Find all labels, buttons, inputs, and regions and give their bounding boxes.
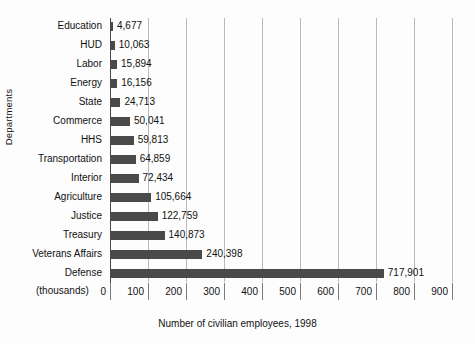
bar-row: HUD10,063 xyxy=(110,37,452,56)
bar-row: Treasury140,873 xyxy=(110,227,452,246)
bar-row: Veterans Affairs240,398 xyxy=(110,246,452,265)
bar xyxy=(111,155,136,164)
category-label: Veterans Affairs xyxy=(32,247,102,260)
category-label: HUD xyxy=(80,38,102,51)
category-label: Agriculture xyxy=(54,190,102,203)
category-label: Justice xyxy=(71,209,102,222)
y-axis-title-text: Departments xyxy=(2,52,16,182)
units-note: (thousands) xyxy=(36,285,89,296)
x-axis-ticks: 0100200300400500600700800900 xyxy=(110,283,452,301)
bar-chart: Departments Education4,677HUD10,063Labor… xyxy=(0,0,475,344)
bar xyxy=(111,212,158,221)
x-tick-mark-900 xyxy=(452,283,453,300)
bar-row: Agriculture105,664 xyxy=(110,189,452,208)
category-label: State xyxy=(79,95,102,108)
bar-row: Defense717,901 xyxy=(110,265,452,284)
bar-value-label: 72,434 xyxy=(143,171,174,184)
x-tick-mark-300 xyxy=(224,283,225,300)
bar-value-label: 4,677 xyxy=(117,19,142,32)
category-label: Commerce xyxy=(53,114,102,127)
bar-value-label: 15,894 xyxy=(121,57,152,70)
bar-value-label: 50,041 xyxy=(134,114,165,127)
bar xyxy=(111,41,115,50)
category-label: Transportation xyxy=(38,152,102,165)
bar xyxy=(111,60,117,69)
x-tick-mark-800 xyxy=(414,283,415,300)
bar xyxy=(111,136,134,145)
x-tick-mark-100 xyxy=(148,283,149,300)
bar xyxy=(111,250,202,259)
bar xyxy=(111,98,120,107)
bar-row: Education4,677 xyxy=(110,18,452,37)
x-tick-label-300: 300 xyxy=(190,285,220,298)
bar-value-label: 240,398 xyxy=(206,247,242,260)
bar-row: Labor15,894 xyxy=(110,56,452,75)
bar xyxy=(111,193,151,202)
x-tick-mark-400 xyxy=(262,283,263,300)
bar-value-label: 105,664 xyxy=(155,190,191,203)
category-label: Labor xyxy=(76,57,102,70)
x-tick-mark-0 xyxy=(110,283,111,300)
plot-area: Education4,677HUD10,063Labor15,894Energy… xyxy=(110,18,452,282)
category-label: Treasury xyxy=(63,228,102,241)
category-label: Education xyxy=(58,19,102,32)
x-tick-mark-500 xyxy=(300,283,301,300)
x-tick-label-900: 900 xyxy=(418,285,448,298)
bar xyxy=(111,231,165,240)
bar-value-label: 64,859 xyxy=(140,152,171,165)
bar xyxy=(111,269,384,278)
x-tick-label-700: 700 xyxy=(342,285,372,298)
bar xyxy=(111,117,130,126)
x-tick-label-800: 800 xyxy=(380,285,410,298)
bar-row: State24,713 xyxy=(110,94,452,113)
category-label: Energy xyxy=(70,76,102,89)
x-tick-mark-200 xyxy=(186,283,187,300)
bar-row: Transportation64,859 xyxy=(110,151,452,170)
x-tick-label-100: 100 xyxy=(114,285,144,298)
x-tick-label-400: 400 xyxy=(228,285,258,298)
bar-value-label: 16,156 xyxy=(121,76,152,89)
bar-value-label: 10,063 xyxy=(119,38,150,51)
category-label: Interior xyxy=(71,171,102,184)
bar-value-label: 717,901 xyxy=(388,266,424,279)
x-axis-title: Number of civilian employees, 1998 xyxy=(0,318,475,329)
x-tick-mark-700 xyxy=(376,283,377,300)
bar xyxy=(111,174,139,183)
bar-row: Commerce50,041 xyxy=(110,113,452,132)
bar xyxy=(111,79,117,88)
category-label: Defense xyxy=(65,266,102,279)
x-tick-label-600: 600 xyxy=(304,285,334,298)
x-tick-mark-600 xyxy=(338,283,339,300)
x-tick-label-200: 200 xyxy=(152,285,182,298)
bar-row: Justice122,759 xyxy=(110,208,452,227)
bar-value-label: 24,713 xyxy=(124,95,155,108)
x-tick-label-500: 500 xyxy=(266,285,296,298)
bar xyxy=(111,22,113,31)
bar-row: HHS59,813 xyxy=(110,132,452,151)
bar-value-label: 122,759 xyxy=(162,209,198,222)
gridline-900 xyxy=(452,18,453,282)
bar-value-label: 140,873 xyxy=(169,228,205,241)
bar-row: Interior72,434 xyxy=(110,170,452,189)
bar-row: Energy16,156 xyxy=(110,75,452,94)
category-label: HHS xyxy=(81,133,102,146)
bar-value-label: 59,813 xyxy=(138,133,169,146)
